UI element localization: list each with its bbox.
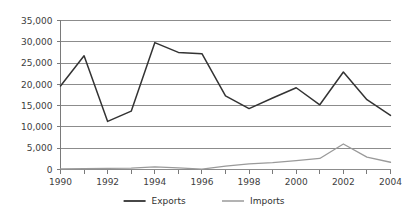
x-axis-label: 1996 — [190, 177, 213, 187]
y-axis-label: 5,000 — [27, 143, 53, 153]
x-axis-label: 2002 — [332, 177, 355, 187]
x-axis-label: 1994 — [143, 177, 166, 187]
chart-legend: ExportsImports — [124, 196, 285, 206]
x-axis-label: 2000 — [285, 177, 308, 187]
series-line-exports — [61, 43, 391, 122]
legend-label-imports: Imports — [250, 196, 285, 206]
y-axis-label: 35,000 — [21, 16, 53, 26]
y-axis-label: 10,000 — [21, 122, 53, 132]
y-axis-label: 30,000 — [21, 37, 53, 47]
y-axis-label: 20,000 — [21, 80, 53, 90]
x-axis-label: 1998 — [238, 177, 261, 187]
y-axis-label: 0 — [47, 165, 53, 175]
x-axis-label: 1992 — [96, 177, 119, 187]
chart-canvas: 05,00010,00015,00020,00025,00030,00035,0… — [0, 0, 410, 219]
y-axis-label: 15,000 — [21, 101, 53, 111]
x-axis-label: 1990 — [49, 177, 72, 187]
y-axis-label: 25,000 — [21, 58, 53, 68]
x-axis-label: 2004 — [379, 177, 402, 187]
legend-label-exports: Exports — [152, 196, 186, 206]
line-chart: 05,00010,00015,00020,00025,00030,00035,0… — [0, 0, 410, 219]
